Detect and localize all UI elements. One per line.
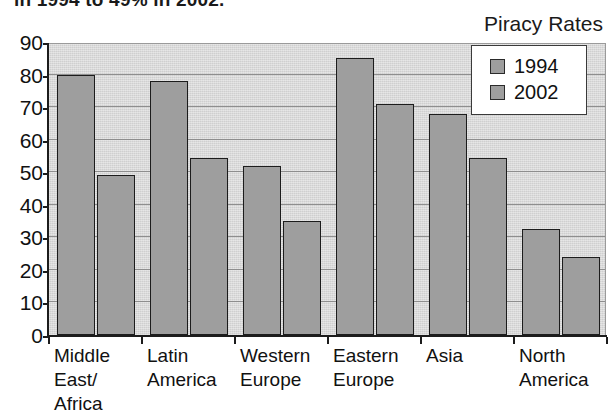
bar — [283, 221, 321, 335]
y-tick-label: 90 — [3, 32, 43, 53]
y-axis-tick-labels: 9080706050403020100 — [0, 41, 43, 337]
legend-swatch-icon — [490, 85, 505, 100]
x-tick-mark — [48, 337, 50, 344]
bar — [150, 81, 188, 335]
x-tick-mark — [513, 337, 515, 344]
bar — [562, 257, 600, 335]
y-tick-label: 60 — [3, 130, 43, 151]
x-tick-mark — [234, 337, 236, 344]
legend-label: 1994 — [514, 55, 559, 77]
y-tick-label: 20 — [3, 260, 43, 281]
y-tick-label: 80 — [3, 65, 43, 86]
x-category-label: Latin America — [147, 344, 246, 392]
legend-item: 2002 — [472, 79, 586, 105]
y-tick-label: 50 — [3, 162, 43, 183]
legend-label: 2002 — [514, 81, 559, 103]
bar — [97, 175, 135, 335]
y-tick-mark — [43, 271, 49, 273]
x-category-label: Eastern Europe — [333, 344, 432, 392]
chart-legend: 19942002 — [471, 45, 587, 115]
bar — [469, 158, 507, 335]
x-axis-category-labels: Middle East/ AfricaLatin AmericaWestern … — [0, 344, 614, 418]
y-tick-label: 70 — [3, 97, 43, 118]
x-tick-mark — [606, 337, 608, 344]
chart-title: Piracy Rates — [484, 12, 603, 36]
y-tick-label: 0 — [3, 325, 43, 346]
y-tick-mark — [43, 76, 49, 78]
x-category-label: North America — [519, 344, 614, 392]
bar — [429, 114, 467, 335]
legend-item: 1994 — [472, 53, 586, 79]
y-tick-mark — [43, 43, 49, 45]
x-tick-mark — [141, 337, 143, 344]
y-tick-mark — [43, 238, 49, 240]
y-axis-line — [47, 43, 49, 337]
bar-chart-figure: 9080706050403020100 Middle East/ AfricaL… — [0, 41, 614, 418]
bar — [376, 104, 414, 335]
y-tick-mark — [43, 141, 49, 143]
bar — [190, 158, 228, 335]
x-tick-mark — [327, 337, 329, 344]
legend-swatch-icon — [490, 59, 505, 74]
y-tick-mark — [43, 108, 49, 110]
y-tick-mark — [43, 173, 49, 175]
x-category-label: Middle East/ Africa — [54, 344, 153, 416]
x-category-label: Western Europe — [240, 344, 339, 392]
y-tick-label: 30 — [3, 227, 43, 248]
y-tick-mark — [43, 336, 49, 338]
x-category-label: Asia — [426, 344, 525, 368]
clipped-caption-text: in 1994 to 49% in 2002. — [14, 0, 225, 11]
y-tick-mark — [43, 303, 49, 305]
y-tick-label: 40 — [3, 195, 43, 216]
bar — [243, 166, 281, 335]
bar — [336, 58, 374, 335]
x-tick-mark — [420, 337, 422, 344]
bar — [57, 75, 95, 335]
y-tick-label: 10 — [3, 292, 43, 313]
bar — [522, 229, 560, 335]
y-tick-mark — [43, 206, 49, 208]
